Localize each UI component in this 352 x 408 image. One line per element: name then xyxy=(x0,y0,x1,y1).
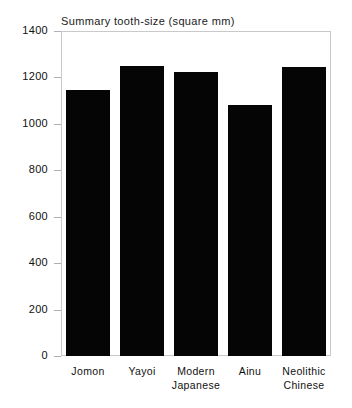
y-axis-tick-label: 800 xyxy=(29,162,48,177)
bar xyxy=(228,105,272,356)
x-axis-tick-label: Yayoi xyxy=(111,364,173,378)
x-axis-label-line: Neolithic xyxy=(273,364,335,378)
x-axis-label-line: Chinese xyxy=(273,378,335,392)
y-axis-tick-label: 1200 xyxy=(22,69,48,84)
y-axis-tick-label: 1000 xyxy=(22,116,48,131)
y-axis-tick-label: 0 xyxy=(42,348,48,363)
y-axis-tick-mark xyxy=(54,263,61,264)
y-axis-tick-mark xyxy=(54,124,61,125)
y-axis-tick-label: 600 xyxy=(29,209,48,224)
plot-area xyxy=(61,31,331,356)
y-axis-tick-label: 200 xyxy=(29,302,48,317)
x-axis-tick-label: Ainu xyxy=(219,364,281,378)
y-axis-tick-mark xyxy=(54,356,61,357)
chart-figure: Summary tooth-size (square mm) 020040060… xyxy=(0,0,352,408)
bar xyxy=(174,72,218,356)
chart-title: Summary tooth-size (square mm) xyxy=(61,14,235,28)
x-axis-tick-label: Jomon xyxy=(57,364,119,378)
x-axis-label-line: Modern xyxy=(165,364,227,378)
x-axis-tick-label: NeolithicChinese xyxy=(273,364,335,392)
y-axis-tick-label: 1400 xyxy=(22,23,48,38)
x-axis-tick-label: ModernJapanese xyxy=(165,364,227,392)
x-axis-label-line: Japanese xyxy=(165,378,227,392)
y-axis-tick-mark xyxy=(54,77,61,78)
bar xyxy=(120,66,164,356)
y-axis-tick-label: 400 xyxy=(29,255,48,270)
x-axis-label-line: Yayoi xyxy=(111,364,173,378)
y-axis-tick-mark xyxy=(54,170,61,171)
y-axis-tick-mark xyxy=(54,217,61,218)
y-axis-tick-mark xyxy=(54,31,61,32)
bar xyxy=(66,90,110,356)
x-axis-label-line: Jomon xyxy=(57,364,119,378)
bar xyxy=(282,67,326,356)
x-axis-label-line: Ainu xyxy=(219,364,281,378)
y-axis-tick-mark xyxy=(54,310,61,311)
